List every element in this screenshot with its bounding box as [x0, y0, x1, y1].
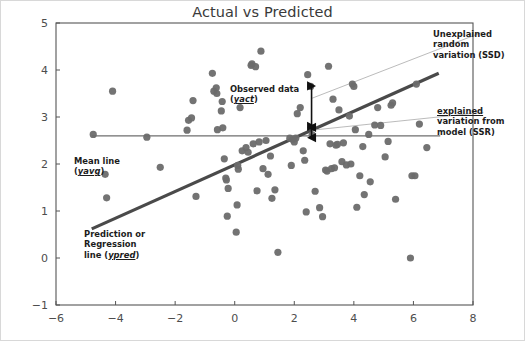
data-point	[274, 249, 281, 256]
data-point	[235, 166, 242, 173]
data-point	[103, 194, 110, 201]
x-tick-label: −2	[167, 312, 183, 325]
data-point	[221, 155, 228, 162]
data-point	[303, 208, 310, 215]
data-point	[423, 144, 430, 151]
data-point	[188, 114, 195, 121]
data-point	[233, 229, 240, 236]
x-tick-label: −6	[48, 312, 64, 325]
data-point	[325, 63, 332, 70]
data-point	[346, 112, 353, 119]
data-point	[253, 187, 260, 194]
figure-inner: Actual vs Predicted −6−4−202468−1012345 …	[1, 1, 524, 340]
data-point	[407, 254, 414, 261]
data-point	[252, 63, 259, 70]
data-point	[377, 122, 384, 129]
ssr-line-2: variation from	[437, 116, 505, 126]
data-point	[312, 188, 319, 195]
y-tick-label: 2	[41, 158, 48, 171]
data-point	[223, 176, 230, 183]
observed-paren-close: )	[254, 94, 258, 104]
data-point	[385, 138, 392, 145]
ssd-line-2: random	[433, 39, 505, 49]
y-tick-label: 1	[41, 205, 48, 218]
data-point	[392, 196, 399, 203]
y-tick-label: 4	[41, 64, 48, 77]
prediction-line-2: Regression	[84, 239, 145, 249]
observed-data-label: Observed data (yact)	[230, 84, 299, 105]
prediction-line-1: Prediction or	[84, 229, 145, 239]
data-point	[267, 152, 274, 159]
data-point	[143, 134, 150, 141]
data-point	[382, 153, 389, 160]
data-point	[219, 98, 226, 105]
data-point	[264, 171, 271, 178]
data-point	[109, 88, 116, 95]
x-tick-label: 0	[231, 312, 238, 325]
data-point	[334, 141, 341, 148]
observed-variable: yact	[234, 94, 254, 104]
data-point	[307, 83, 314, 90]
prediction-line-label: Prediction or Regression line (ypred)	[84, 229, 145, 260]
observed-data-line-1: Observed data	[230, 84, 299, 94]
unexplained-variation-label: Unexplained random variation (SSD)	[433, 29, 505, 60]
mean-paren-close: )	[100, 166, 104, 176]
data-point	[297, 104, 304, 111]
data-point	[335, 106, 342, 113]
observed-data-line-2: (yact)	[230, 94, 299, 104]
data-point	[326, 140, 333, 147]
prediction-variable: ypred	[108, 250, 135, 260]
ssd-line-3: variation (SSD)	[433, 50, 505, 60]
data-point	[236, 104, 243, 111]
data-point	[301, 157, 308, 164]
data-point	[262, 137, 269, 144]
data-point	[374, 104, 381, 111]
data-point	[257, 48, 264, 55]
data-point	[416, 120, 423, 127]
ssr-line-1: explained	[437, 106, 505, 116]
x-tick-label: −4	[107, 312, 123, 325]
y-tick-label: 5	[41, 17, 48, 30]
prediction-line-3: line (ypred)	[84, 250, 145, 260]
data-point	[329, 96, 336, 103]
data-point	[225, 185, 232, 192]
x-tick-label: 4	[350, 312, 357, 325]
data-point	[304, 71, 311, 78]
plot-data-group	[90, 32, 484, 261]
ssr-line-3: model (SSR)	[437, 127, 505, 137]
ssd-line-1: Unexplained	[433, 29, 505, 39]
x-tick-label: 8	[470, 312, 477, 325]
mean-line-line-1: Mean line	[74, 156, 120, 166]
data-point	[292, 135, 299, 142]
data-point	[340, 139, 347, 146]
data-point	[233, 201, 240, 208]
data-point	[209, 70, 216, 77]
mean-line-line-2: (yavg)	[74, 166, 120, 176]
data-point	[219, 124, 226, 131]
x-tick-label: 6	[410, 312, 417, 325]
y-tick-label: 3	[41, 111, 48, 124]
data-point	[411, 172, 418, 179]
data-point	[256, 138, 263, 145]
y-tick-label: 0	[41, 252, 48, 265]
data-point	[316, 204, 323, 211]
data-point	[300, 147, 307, 154]
data-point	[356, 172, 363, 179]
data-point	[90, 131, 97, 138]
data-point	[192, 193, 199, 200]
data-point	[183, 127, 190, 134]
data-point	[389, 99, 396, 106]
data-point	[268, 195, 275, 202]
prediction-paren-close: )	[135, 250, 139, 260]
data-point	[189, 97, 196, 104]
data-point	[218, 107, 225, 114]
chart-figure: Actual vs Predicted −6−4−202468−1012345 …	[0, 0, 525, 341]
data-point	[413, 81, 420, 88]
data-point	[359, 143, 366, 150]
data-point	[350, 83, 357, 90]
prediction-prefix: line (	[84, 250, 108, 260]
data-point	[259, 165, 266, 172]
data-point	[365, 131, 372, 138]
data-point	[213, 90, 220, 97]
data-point	[353, 204, 360, 211]
